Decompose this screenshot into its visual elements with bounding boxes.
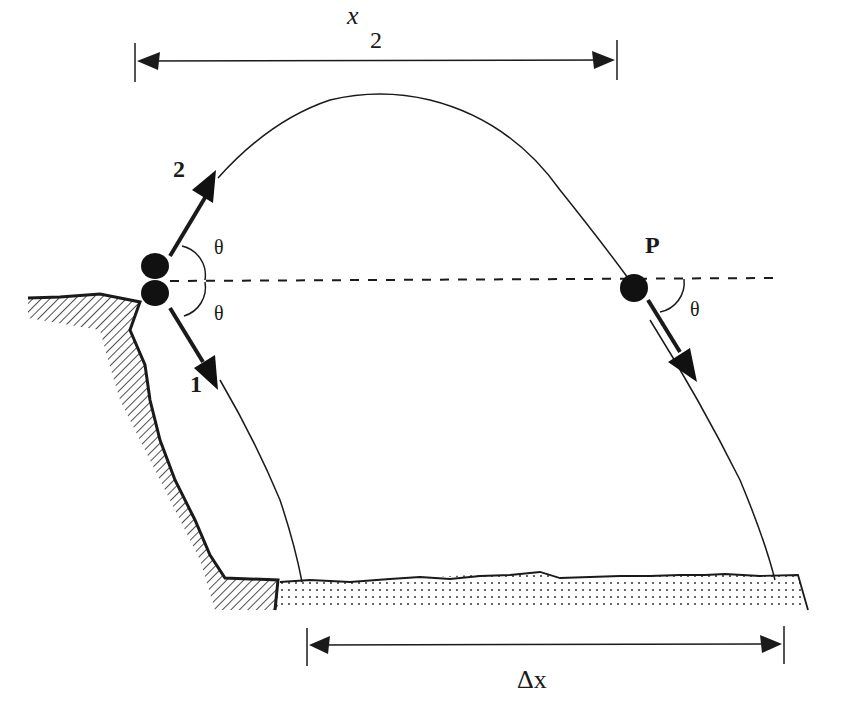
arrowhead-right-icon xyxy=(592,51,615,69)
arrowhead-left-icon xyxy=(137,52,160,70)
label-ball-2: 2 xyxy=(173,156,185,182)
theta-lower: θ xyxy=(214,302,224,324)
x2-dimension: x 2 xyxy=(135,1,617,82)
x2-label: x xyxy=(346,1,359,30)
trajectory-1 xyxy=(220,380,302,582)
angle-arc-upper xyxy=(182,246,205,280)
delta-x-dimension: Δx xyxy=(307,626,784,694)
label-point-p: P xyxy=(645,232,660,258)
ball-p xyxy=(620,274,648,302)
angle-arc-p xyxy=(660,279,684,312)
angle-arc-lower xyxy=(184,282,205,316)
x2-subscript: 2 xyxy=(370,27,382,53)
arrowhead-right-icon xyxy=(760,635,782,653)
ball-1 xyxy=(141,280,169,306)
label-ball-1: 1 xyxy=(190,371,202,397)
arrowhead-left-icon xyxy=(309,636,330,654)
projectile-diagram: x 2 2 1 P θ θ θ Δx xyxy=(0,0,847,709)
trajectory-2 xyxy=(218,94,775,580)
cliff xyxy=(28,294,278,610)
velocity-arrow-p-icon xyxy=(668,348,697,382)
ball-2 xyxy=(141,253,169,279)
theta-p: θ xyxy=(690,298,700,320)
ground xyxy=(280,572,808,610)
delta-x-label: Δx xyxy=(517,665,547,694)
theta-upper: θ xyxy=(214,236,224,258)
